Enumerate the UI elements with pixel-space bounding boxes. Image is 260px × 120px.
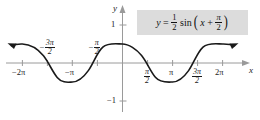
y-axis-arrow-icon xyxy=(120,5,126,13)
x-tick-label-pi: π xyxy=(169,68,173,77)
x-tick-pi-over-2-fraction: π 2 xyxy=(144,68,150,85)
x-tick-neg-pi-over-2-denominator: 2 xyxy=(94,48,100,56)
y-tick-label-1: 1 xyxy=(111,20,115,29)
equation-phase-fraction: π 2 xyxy=(215,13,221,32)
sine-function-figure: y = 1 2 sin ( x + π 2 ) y x 1 −1 −2π −π … xyxy=(0,0,260,120)
equation-y-symbol: y xyxy=(156,17,160,28)
x-tick-neg-3pi-pi: π xyxy=(50,38,54,47)
equation-phase-denominator: 2 xyxy=(215,23,221,32)
equation-x-symbol: x xyxy=(200,17,204,28)
equation-amplitude-denominator: 2 xyxy=(171,23,177,32)
equation-open-paren: ( xyxy=(194,16,198,28)
x-tick-label-2pi: 2π xyxy=(215,68,224,77)
x-tick-label-neg-pi: −π xyxy=(65,68,74,77)
x-tick-neg-3pi-over-2-fraction: 3π 2 xyxy=(45,39,55,56)
x-tick-3pi-over-2-fraction: 3π 2 xyxy=(192,68,202,85)
y-tick-label-neg1: −1 xyxy=(107,96,116,105)
equation-amplitude-fraction: 1 2 xyxy=(171,13,177,32)
equation-sin-function: sin xyxy=(179,17,192,28)
x-tick-pi-over-2-denominator: 2 xyxy=(144,77,150,85)
equation-callout-box: y = 1 2 sin ( x + π 2 ) xyxy=(137,10,248,35)
equation-close-paren: ) xyxy=(224,16,228,28)
x-tick-label-neg-3pi-over-2: − 3π 2 xyxy=(39,38,55,56)
x-tick-neg-3pi-over-2-denominator: 2 xyxy=(45,48,55,56)
x-tick-label-neg-2pi: −2π xyxy=(12,68,25,77)
x-axis-label: x xyxy=(249,66,253,75)
x-tick-label-3pi-over-2: 3π 2 xyxy=(192,67,202,85)
curve-left-arrow-icon xyxy=(8,43,17,49)
x-tick-label-pi-over-2: π 2 xyxy=(144,67,150,85)
x-tick-neg-pi-over-2-fraction: π 2 xyxy=(94,39,100,56)
x-tick-3pi-over-2-denominator: 2 xyxy=(192,77,202,85)
x-tick-label-neg-pi-over-2: − π 2 xyxy=(88,38,100,56)
equation-equals-sign: = xyxy=(162,17,170,28)
y-axis-label: y xyxy=(113,4,117,13)
equation-plus-sign: + xyxy=(206,17,214,28)
x-tick-3pi-pi: π xyxy=(197,67,201,76)
equation-text: y = 1 2 sin ( x + π 2 ) xyxy=(156,13,229,32)
curve-right-arrow-icon xyxy=(229,43,238,49)
